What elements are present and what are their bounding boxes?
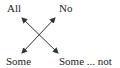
arrows-canvas [0,0,120,68]
